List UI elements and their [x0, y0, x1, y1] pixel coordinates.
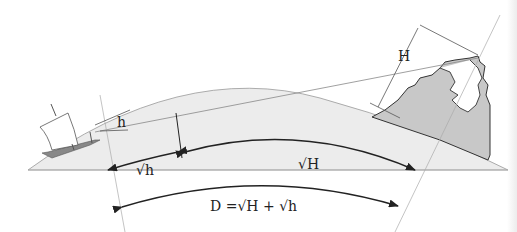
label-sqrt-h: √h: [136, 162, 154, 178]
label-small-h: h: [117, 114, 126, 130]
label-sqrt-H: √H: [298, 156, 319, 172]
label-distance-formula: D =√H + √h: [210, 198, 297, 214]
label-big-H: H: [398, 48, 410, 64]
horizon-diagram: h H √h √H D =√H + √h: [0, 0, 517, 232]
page-edge-shadow: [507, 0, 517, 232]
mountain-H-top: [420, 25, 478, 55]
